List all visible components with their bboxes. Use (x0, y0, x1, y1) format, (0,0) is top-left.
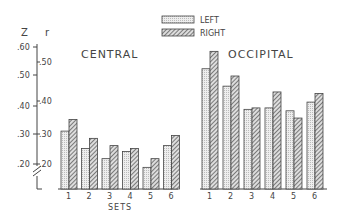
svg-text:.20: .20 (39, 160, 52, 169)
central-bar-right-3 (110, 146, 118, 189)
x-tick-label: 6 (312, 192, 317, 201)
svg-text:.30: .30 (17, 130, 30, 139)
occipital-bar-right-2 (231, 76, 239, 189)
occipital-bar-right-3 (252, 108, 260, 189)
central-bar-left-4 (123, 151, 131, 189)
x-tick-label: 5 (291, 192, 296, 201)
svg-text:.60: .60 (17, 43, 30, 52)
occipital-bar-right-6 (315, 93, 323, 189)
x-axis-label: SETS (108, 203, 132, 212)
central-bar-left-1 (61, 131, 69, 189)
occipital-bar-right-1 (210, 51, 218, 189)
x-tick-label: 4 (128, 192, 133, 201)
central-bar-right-5 (151, 159, 159, 189)
central-bar-right-2 (90, 138, 98, 189)
legend-left-label: LEFT (200, 16, 219, 25)
central-bar-left-5 (143, 167, 151, 189)
x-tick-label: 6 (169, 192, 174, 201)
x-tick-label: 4 (270, 192, 275, 201)
x-tick-label: 3 (249, 192, 254, 201)
occipital-bar-left-5 (286, 111, 294, 189)
legend-left-swatch (162, 16, 194, 23)
central-bar-right-6 (172, 135, 180, 189)
bars (61, 51, 323, 189)
occipital-bar-left-6 (307, 102, 315, 189)
central-bar-right-1 (69, 120, 77, 190)
legend-right-label: RIGHT (200, 29, 225, 38)
occipital-title: OCCIPITAL (228, 48, 294, 61)
x-tick-label: 1 (66, 192, 71, 201)
legend: LEFT RIGHT (162, 16, 225, 38)
svg-text:.30: .30 (39, 130, 52, 139)
x-tick-labels: 123456123456 (66, 192, 317, 201)
central-bar-left-2 (82, 149, 90, 190)
svg-text:.20: .20 (17, 160, 30, 169)
chart-svg: LEFT RIGHT Z r .60 .50 .40 .30 .20 .50 .… (0, 0, 343, 220)
svg-text:.50: .50 (39, 58, 52, 67)
x-tick-label: 2 (87, 192, 92, 201)
svg-text:.50: .50 (17, 71, 30, 80)
occipital-bar-left-2 (223, 86, 231, 189)
central-title: CENTRAL (81, 48, 138, 61)
occipital-bar-left-1 (202, 69, 210, 189)
y-axis: Z r .60 .50 .40 .30 .20 .50 .40 .30 .20 (17, 27, 52, 189)
r-ticks: .50 .40 .30 .20 (37, 58, 52, 169)
z-axis-label: Z (21, 27, 28, 38)
central-bar-left-3 (102, 159, 110, 189)
svg-text:.40: .40 (17, 102, 30, 111)
svg-text:.40: .40 (39, 97, 52, 106)
central-bar-right-4 (131, 149, 139, 190)
occipital-bar-left-3 (244, 109, 252, 189)
x-tick-label: 3 (107, 192, 112, 201)
x-tick-label: 2 (228, 192, 233, 201)
x-tick-label: 1 (207, 192, 212, 201)
r-axis-label: r (45, 27, 50, 38)
occipital-bar-right-4 (273, 92, 281, 189)
occipital-bar-right-5 (294, 118, 302, 189)
legend-right-swatch (162, 29, 194, 36)
central-bar-left-6 (164, 146, 172, 189)
x-tick-label: 5 (148, 192, 153, 201)
occipital-bar-left-4 (265, 108, 273, 189)
z-ticks: .60 .50 .40 .30 .20 (17, 43, 37, 169)
